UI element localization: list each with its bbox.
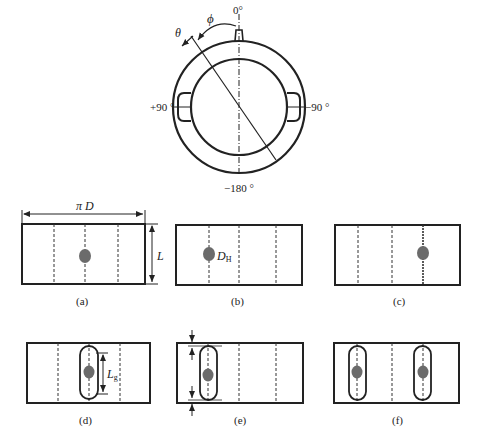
angle-label-minus90: −90 ° — [305, 101, 329, 113]
unrolled-bearing-surface — [177, 343, 303, 403]
caption-e: (e) — [234, 414, 247, 427]
oil-hole — [84, 366, 95, 379]
oil-hole — [79, 249, 91, 263]
theta-symbol: θ — [175, 26, 181, 40]
oil-hole — [203, 247, 215, 261]
hole-diameter-label: DH — [216, 249, 232, 264]
caption-c: (c) — [393, 295, 406, 308]
phi-arc-arrow — [198, 24, 236, 40]
phi-symbol: ϕ — [207, 11, 214, 26]
angle-label-plus90: +90 ° — [150, 101, 174, 113]
oil-hole-right — [418, 366, 429, 379]
unrolled-bearing-surface — [335, 225, 460, 285]
theta-reference-line — [191, 36, 276, 160]
panel-e: (e) — [177, 330, 303, 427]
bearing-diagram: 0° ϕ θ +90 ° −90 ° −180 ° π D L (a) DH (… — [0, 0, 477, 442]
caption-f: (f) — [392, 414, 403, 427]
oil-hole — [417, 246, 429, 260]
caption-b: (b) — [231, 295, 244, 308]
panel-c: (c) — [335, 225, 460, 308]
panel-a: π D L (a) — [22, 199, 164, 308]
panel-b: DH (b) — [176, 225, 302, 308]
angle-label-0: 0° — [233, 4, 243, 16]
width-label: π D — [76, 199, 94, 213]
groove-length-label: Lg — [106, 367, 118, 382]
theta-arrow — [182, 36, 193, 46]
panel-f: (f) — [334, 343, 459, 427]
caption-d: (d) — [79, 414, 92, 427]
caption-a: (a) — [76, 295, 89, 308]
bearing-top-view: 0° ϕ θ +90 ° −90 ° −180 ° — [150, 4, 329, 194]
angle-label-minus180: −180 ° — [224, 182, 254, 194]
panel-d: Lg (d) — [27, 343, 150, 427]
oil-hole-left — [352, 366, 363, 379]
height-label: L — [156, 249, 164, 263]
oil-hole — [203, 369, 214, 382]
